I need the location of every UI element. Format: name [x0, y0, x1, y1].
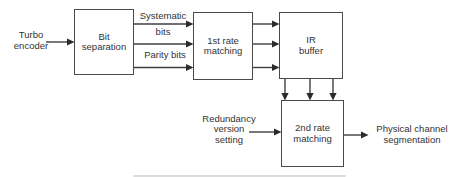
parity-bits-label: Parity bits	[134, 50, 196, 61]
arrow-ratematch1-to-irbuffer-2	[253, 40, 280, 47]
systematic-bits-label-top: Systematic	[133, 11, 193, 22]
turbo-encoder-label: Turbo encoder	[5, 30, 57, 51]
arrow-irbuffer-to-ratematch2-1	[281, 79, 288, 101]
arrow-middle-bits	[133, 40, 194, 47]
ir-buffer-box: IR buffer	[279, 12, 343, 79]
systematic-bits-label-bottom: bits	[133, 27, 193, 38]
arrow-ratematch1-to-irbuffer-3	[253, 64, 280, 71]
first-rate-matching-box: 1st rate matching	[193, 12, 253, 80]
cropped-caption-remnant	[133, 175, 346, 177]
block-diagram: Turbo encoder Systematic bits Parity bit…	[0, 0, 460, 177]
arrow-parity-bits	[133, 64, 194, 71]
redundancy-version-setting-label: Redundancy version setting	[197, 114, 261, 146]
arrow-irbuffer-to-ratematch2-2	[306, 79, 313, 101]
second-rate-matching-box-label: 2nd rate matching	[293, 123, 332, 144]
first-rate-matching-box-label: 1st rate matching	[204, 36, 243, 57]
arrow-irbuffer-to-ratematch2-3	[329, 79, 336, 101]
bit-separation-box-label: Bit separation	[82, 32, 126, 53]
arrow-ratematch1-to-irbuffer-1	[253, 20, 280, 27]
ir-buffer-box-label: IR buffer	[299, 35, 323, 56]
bit-separation-box: Bit separation	[74, 9, 134, 75]
second-rate-matching-box: 2nd rate matching	[281, 100, 344, 167]
physical-channel-segmentation-label: Physical channel segmentation	[369, 124, 455, 145]
arrow-ratematch2-to-physical	[344, 131, 369, 138]
